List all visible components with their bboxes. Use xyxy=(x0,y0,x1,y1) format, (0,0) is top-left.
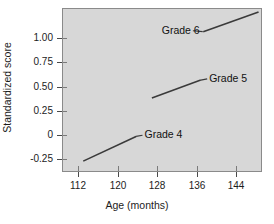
x-tick-mark-112 xyxy=(78,172,79,177)
x-tick-label-128: 128 xyxy=(140,181,174,191)
x-tick-mark-inner-144 xyxy=(236,166,237,171)
y-tick-label-0.25: 0.25 xyxy=(21,106,53,116)
x-tick-label-112: 112 xyxy=(61,181,95,191)
x-tick-mark-128 xyxy=(157,172,158,177)
y-tick-mark-inner-neg0.25 xyxy=(63,159,67,160)
x-tick-mark-inner-136 xyxy=(197,166,198,171)
y-tick-mark-0 xyxy=(57,135,62,136)
series-label-grade-4: Grade 4 xyxy=(144,129,182,140)
x-tick-mark-inner-120 xyxy=(118,166,119,171)
y-tick-mark-inner-0 xyxy=(63,135,67,136)
series-label-grade-6: Grade 6 xyxy=(162,25,200,36)
x-axis-title: Age (months) xyxy=(0,200,274,211)
y-axis-title: Standardized score xyxy=(2,38,13,138)
y-tick-label-1.00: 1.00 xyxy=(21,33,53,43)
y-tick-mark-0.50 xyxy=(57,87,62,88)
y-tick-mark-inner-0.50 xyxy=(63,87,67,88)
y-tick-label-0.50: 0.50 xyxy=(21,82,53,92)
series-label-grade-5: Grade 5 xyxy=(209,73,247,84)
y-tick-mark-inner-0.75 xyxy=(63,62,67,63)
y-tick-label-0: 0 xyxy=(21,130,53,140)
y-tick-mark-neg0.25 xyxy=(57,159,62,160)
y-tick-mark-0.25 xyxy=(57,111,62,112)
y-tick-mark-inner-0.25 xyxy=(63,111,67,112)
x-tick-mark-136 xyxy=(197,172,198,177)
chart-figure: 1.00 0.75 0.50 0.25 0 -0.25 112 120 128 … xyxy=(0,0,274,224)
y-tick-label-0.75: 0.75 xyxy=(21,57,53,67)
x-tick-label-136: 136 xyxy=(180,181,214,191)
x-tick-label-120: 120 xyxy=(101,181,135,191)
y-tick-mark-1.00 xyxy=(57,38,62,39)
y-tick-label-neg0.25: -0.25 xyxy=(17,154,53,164)
y-tick-mark-0.75 xyxy=(57,62,62,63)
x-tick-mark-inner-112 xyxy=(78,166,79,171)
y-tick-mark-inner-1.00 xyxy=(63,38,67,39)
x-tick-mark-inner-128 xyxy=(157,166,158,171)
x-tick-mark-144 xyxy=(236,172,237,177)
x-tick-label-144: 144 xyxy=(219,181,253,191)
x-tick-mark-120 xyxy=(118,172,119,177)
